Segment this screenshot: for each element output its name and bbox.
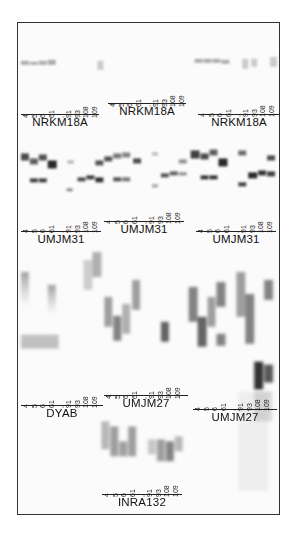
panel-underline [104, 221, 184, 222]
panel-underline [21, 231, 101, 232]
panel-underline [104, 395, 188, 396]
panel-underline [193, 409, 277, 410]
panel-underline [21, 114, 99, 115]
panel-title: NRKM18A [198, 116, 280, 128]
panel-underline [21, 405, 103, 406]
panel-title: UMJM31 [104, 223, 184, 235]
panel-underline [108, 103, 186, 104]
panel-underline [198, 114, 280, 115]
gel-figure-frame: 4 5 6 61 , 91 93 108 109 NRKM18A 4 5 6 6… [17, 22, 280, 515]
panel-title: UMJM31 [21, 233, 101, 245]
panel-title: UMJM31 [196, 233, 276, 245]
panel-underline [196, 231, 276, 232]
panel-title: NRKM18A [21, 116, 99, 128]
panel-title: DYAB [21, 407, 103, 419]
panel-title: NRKM18A [108, 105, 186, 117]
panel-title: UMJM27 [193, 411, 277, 423]
panel-underline [102, 494, 182, 495]
panel-title: INRA132 [102, 496, 182, 508]
panel-title: UMJM27 [104, 397, 188, 409]
